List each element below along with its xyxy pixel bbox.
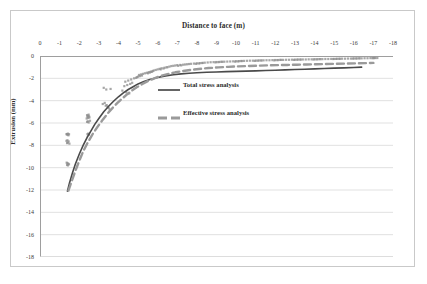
y-tick-label: -14 — [26, 209, 34, 215]
x-tick-label: -14 — [311, 40, 319, 46]
x-tick-label: -12 — [271, 40, 279, 46]
x-tick-label: -5 — [136, 40, 141, 46]
y-tick-label: -12 — [26, 187, 34, 193]
x-tick-label: -1 — [57, 40, 62, 46]
x-tick-label: -8 — [194, 40, 199, 46]
legend-label-effective-stress: Effective stress analysis — [183, 109, 249, 116]
x-tick-label: 0 — [39, 40, 42, 46]
x-tick-label: -4 — [116, 40, 121, 46]
chart-title: Distance to face (m) — [0, 22, 427, 30]
y-tick-label: 0 — [31, 53, 34, 59]
x-tick-label: -13 — [291, 40, 299, 46]
x-tick-label: -2 — [77, 40, 82, 46]
x-tick-label: -15 — [330, 40, 338, 46]
y-axis-label: Extrusion (mm) — [9, 82, 16, 162]
y-tick-label: -18 — [26, 254, 34, 260]
x-tick-label: -9 — [214, 40, 219, 46]
chart-legend: Total stress analysis Effective stress a… — [158, 78, 328, 126]
x-tick-label: -6 — [155, 40, 160, 46]
legend-dashed-line-icon — [158, 108, 180, 116]
x-tick-label: -17 — [369, 40, 377, 46]
chart-figure: Distance to face (m) 0-1-2-3-4-5-6-7-8-9… — [0, 0, 427, 284]
y-axis-tick-labels: 0-2-4-6-8-10-12-14-16-18 — [0, 56, 38, 257]
y-tick-label: -10 — [26, 165, 34, 171]
y-tick-label: -6 — [29, 120, 34, 126]
y-tick-label: -16 — [26, 232, 34, 238]
x-axis-tick-labels: 0-1-2-3-4-5-6-7-8-9-10-11-12-13-14-15-16… — [40, 40, 393, 51]
x-tick-label: -18 — [389, 40, 397, 46]
x-tick-label: -10 — [232, 40, 240, 46]
x-tick-label: -16 — [350, 40, 358, 46]
y-tick-label: -8 — [29, 142, 34, 148]
legend-entry-total-stress: Total stress analysis — [158, 78, 239, 90]
y-tick-label: -4 — [29, 98, 34, 104]
legend-entry-effective-stress: Effective stress analysis — [158, 106, 249, 118]
y-tick-label: -2 — [29, 75, 34, 81]
x-tick-label: -7 — [175, 40, 180, 46]
x-tick-label: -3 — [96, 40, 101, 46]
legend-label-total-stress: Total stress analysis — [183, 81, 239, 88]
x-tick-label: -11 — [252, 40, 260, 46]
legend-solid-line-icon — [158, 80, 180, 88]
